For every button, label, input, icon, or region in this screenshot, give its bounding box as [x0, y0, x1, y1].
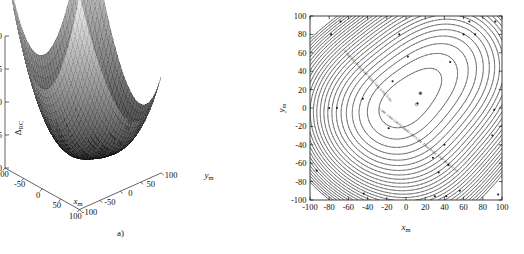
panel-a-surface-plot: 05101520-100-50050100-100-50050100ΔRCxmy…	[0, 0, 262, 254]
svg-text:80: 80	[298, 29, 307, 39]
svg-text:-40: -40	[295, 140, 306, 150]
svg-text:0: 0	[302, 103, 306, 113]
panel-a-caption: a)	[117, 228, 124, 238]
svg-text:50: 50	[147, 179, 156, 189]
svg-text:ΔRC: ΔRC	[13, 121, 24, 135]
svg-text:ym: ym	[203, 170, 213, 181]
svg-text:-100: -100	[291, 195, 307, 205]
svg-text:-80: -80	[324, 202, 335, 212]
contour-value-labels: 12.99311.41110.4939.8478.8847.8686.9785.…	[342, 48, 459, 173]
svg-text:-40: -40	[362, 202, 373, 212]
svg-text:-20: -20	[295, 121, 306, 131]
svg-text:-80: -80	[295, 177, 306, 187]
svg-text:100: 100	[165, 170, 178, 180]
contour-axes-frame	[310, 16, 502, 200]
svg-text:xm: xm	[72, 196, 82, 207]
surface-mesh	[5, 0, 161, 160]
figure-container: 05101520-100-50050100-100-50050100ΔRCxmy…	[0, 0, 524, 254]
svg-text:6.978: 6.978	[414, 136, 423, 144]
svg-text:-20: -20	[381, 202, 392, 212]
svg-text:100: 100	[294, 11, 307, 21]
contour-lines	[310, 16, 502, 200]
svg-text:-60: -60	[295, 158, 306, 168]
contour-plot-svg: 12.99311.41110.4939.8478.8847.8686.9785.…	[262, 0, 524, 254]
svg-text:11.411: 11.411	[450, 165, 460, 174]
svg-text:60: 60	[298, 48, 307, 58]
surface-plot-svg: 05101520-100-50050100-100-50050100ΔRCxmy…	[0, 0, 262, 254]
svg-text:100: 100	[69, 211, 82, 221]
svg-text:5.186: 5.186	[385, 94, 393, 103]
svg-text:ym: ym	[276, 103, 287, 113]
svg-text:40: 40	[298, 66, 307, 76]
svg-text:100: 100	[496, 202, 509, 212]
svg-text:20: 20	[298, 85, 307, 95]
svg-text:80: 80	[479, 202, 488, 212]
svg-text:xm: xm	[400, 222, 410, 233]
svg-text:10: 10	[0, 97, 2, 107]
svg-text:60: 60	[459, 202, 468, 212]
svg-text:-50: -50	[104, 197, 115, 207]
svg-text:-100: -100	[82, 207, 98, 217]
svg-text:0: 0	[404, 202, 408, 212]
svg-text:-100: -100	[0, 169, 9, 179]
svg-text:20: 20	[421, 202, 430, 212]
svg-text:5: 5	[0, 130, 2, 140]
svg-text:7.868: 7.868	[422, 142, 431, 150]
svg-text:0: 0	[36, 190, 40, 200]
panel-b-contour-plot: 12.99311.41110.4939.8478.8847.8686.9785.…	[262, 0, 524, 254]
svg-text:8.884: 8.884	[429, 148, 438, 156]
svg-text:-50: -50	[14, 179, 25, 189]
svg-text:20: 20	[0, 31, 2, 41]
svg-text:1.986: 1.986	[378, 107, 387, 115]
svg-text:15: 15	[0, 64, 2, 74]
svg-text:-60: -60	[343, 202, 354, 212]
svg-text:40: 40	[440, 202, 449, 212]
svg-text:0: 0	[128, 188, 132, 198]
svg-text:50: 50	[53, 200, 62, 210]
